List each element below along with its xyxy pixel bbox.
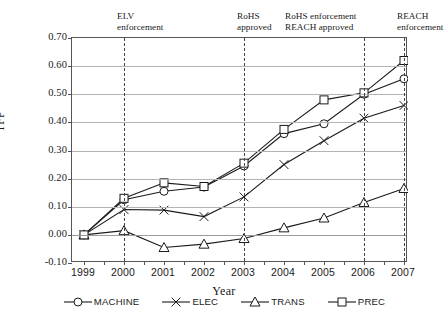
y-tick-mark — [68, 263, 72, 264]
event-label-2000: ELV enforcement — [117, 11, 163, 33]
legend-item-elec[interactable]: ELEC — [161, 296, 218, 308]
data-point-prec-2005 — [320, 96, 328, 104]
legend-marker-square-icon — [327, 296, 357, 308]
data-point-machine-2001 — [160, 187, 168, 195]
y-tick-label: 0.00 — [21, 229, 67, 239]
x-minor-tick-mark — [344, 262, 345, 265]
gridline — [72, 66, 406, 67]
y-tick-mark — [68, 94, 72, 95]
data-point-machine-2005 — [320, 120, 328, 128]
y-tick-mark — [68, 122, 72, 123]
x-tick-mark — [364, 261, 365, 265]
x-tick-mark — [244, 261, 245, 265]
y-tick-label: 0.60 — [21, 60, 67, 70]
y-tick-label: 0.30 — [21, 145, 67, 155]
legend-item-prec[interactable]: PREC — [327, 296, 385, 308]
event-line-2007 — [404, 38, 405, 261]
legend-label: PREC — [358, 297, 385, 307]
legend-marker-circle-icon — [63, 296, 93, 308]
data-point-elec-2005 — [320, 136, 329, 145]
plot-area — [71, 37, 407, 262]
x-tick-mark — [164, 261, 165, 265]
x-minor-tick-mark — [304, 262, 305, 265]
event-line-2000 — [124, 38, 125, 261]
x-tick-mark — [324, 261, 325, 265]
data-point-prec-2004 — [280, 125, 288, 133]
event-label-2006: RoHS enforcement REACH approved — [285, 11, 356, 33]
x-tick-mark — [404, 261, 405, 265]
data-point-prec-2001 — [160, 179, 168, 187]
gridline — [72, 235, 406, 236]
x-tick-mark — [124, 261, 125, 265]
x-tick-mark — [284, 261, 285, 265]
x-tick-label: 2007 — [376, 266, 430, 278]
event-line-2003 — [244, 38, 245, 261]
data-point-prec-2002 — [200, 183, 208, 191]
y-axis-title: TFP — [0, 111, 6, 132]
legend-marker-triangle-icon — [240, 296, 270, 308]
y-tick-mark — [68, 179, 72, 180]
y-tick-label: 0.50 — [21, 88, 67, 98]
data-point-trans-2005 — [319, 213, 329, 222]
gridline — [72, 122, 406, 123]
x-minor-tick-mark — [264, 262, 265, 265]
legend-label: MACHINE — [94, 297, 140, 307]
legend-item-trans[interactable]: TRANS — [240, 296, 305, 308]
legend-label: ELEC — [192, 297, 218, 307]
gridline — [72, 207, 406, 208]
x-minor-tick-mark — [384, 262, 385, 265]
y-tick-mark — [68, 66, 72, 67]
y-tick-mark — [68, 151, 72, 152]
y-tick-label: 0.20 — [21, 173, 67, 183]
y-tick-label: 0.70 — [21, 32, 67, 42]
legend-label: TRANS — [271, 297, 305, 307]
y-tick-mark — [68, 235, 72, 236]
y-tick-mark — [68, 38, 72, 39]
x-minor-tick-mark — [224, 262, 225, 265]
data-point-elec-2004 — [280, 160, 289, 169]
event-label-2003: RoHS approved — [237, 11, 272, 33]
y-tick-mark — [68, 207, 72, 208]
gridline — [72, 151, 406, 152]
x-minor-tick-mark — [104, 262, 105, 265]
x-minor-tick-mark — [144, 262, 145, 265]
x-tick-mark — [204, 261, 205, 265]
y-tick-label: 0.10 — [21, 201, 67, 211]
x-tick-mark — [84, 261, 85, 265]
legend-item-machine[interactable]: MACHINE — [63, 296, 140, 308]
chart-container: TFP Year 0.700.600.500.400.300.200.100.0… — [0, 0, 448, 320]
event-label-2007: REACH enforcement — [397, 11, 443, 33]
event-line-2006 — [364, 38, 365, 261]
x-minor-tick-mark — [184, 262, 185, 265]
y-tick-label: 0.40 — [21, 116, 67, 126]
legend-marker-x-icon — [161, 296, 191, 308]
chart-legend: MACHINEELECTRANSPREC — [0, 296, 448, 308]
gridline — [72, 179, 406, 180]
gridline — [72, 94, 406, 95]
